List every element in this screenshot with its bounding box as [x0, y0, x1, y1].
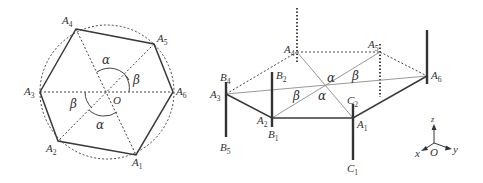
diagonal-a2-a5: [272, 52, 380, 118]
axis-origin-label: O: [430, 146, 438, 158]
axis-label-x: x: [414, 147, 420, 159]
alpha-label-lower: α: [96, 118, 104, 132]
axis-label-y: y: [452, 143, 458, 155]
beta-label-upper: β: [351, 69, 359, 83]
rod-label-b5: B5: [220, 141, 231, 156]
diagram-canvas: α β β α O A4 A5 A6 A1 A2 A3 α β β α: [0, 0, 483, 183]
rod-label-c1: C1: [347, 162, 358, 177]
vertex-label-a2: A2: [45, 142, 57, 157]
beta-label-upper: β: [132, 73, 140, 87]
center-label: O: [113, 94, 121, 106]
beta-arc-lower: [85, 92, 92, 108]
alpha-arc-upper: [97, 68, 129, 80]
vertex-label-a4: A4: [61, 14, 73, 29]
alpha-label-upper: α: [327, 71, 335, 85]
edge-a5-a6: [380, 52, 427, 76]
vertex-label-a5: A5: [367, 38, 379, 53]
beta-arc-upper: [125, 75, 129, 92]
alpha-arc-lower: [89, 110, 117, 116]
right-3d-diagram: α β β α A4 A5 A6 A1 A2 A3 B1 B2 B4 B5 C1…: [209, 8, 458, 177]
vertex-label-a5: A5: [156, 32, 168, 47]
edge-a3-a4: [226, 52, 297, 94]
vertex-label-a3: A3: [23, 85, 35, 100]
rod-label-b1: B1: [268, 128, 279, 143]
beta-label-lower: β: [292, 89, 300, 103]
vertex-label-a2: A2: [256, 114, 268, 129]
vertex-label-a1: A1: [131, 156, 143, 171]
vertex-label-a4: A4: [283, 43, 295, 58]
vertex-label-a6: A6: [175, 85, 187, 100]
alpha-label-lower: α: [318, 89, 326, 103]
vertex-label-a1: A1: [356, 118, 368, 133]
beta-label-lower: β: [69, 97, 77, 111]
coordinate-axes-icon: z y x O: [414, 115, 458, 159]
diagonal-a4-a1: [297, 52, 353, 118]
vertex-label-a6: A6: [430, 69, 442, 84]
vertex-label-a3: A3: [209, 88, 221, 103]
rod-label-b2: B2: [276, 69, 287, 84]
left-hexagon-diagram: α β β α O A4 A5 A6 A1 A2 A3: [23, 14, 187, 171]
axis-label-z: z: [430, 115, 435, 124]
alpha-label-upper: α: [102, 53, 110, 67]
